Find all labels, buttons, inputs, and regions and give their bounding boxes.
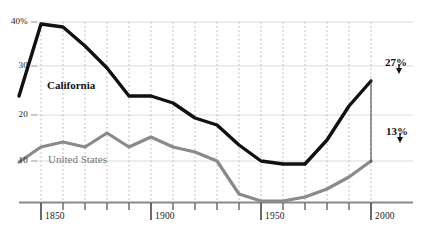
annotation-united-states-13-percent: 13%: [386, 125, 408, 137]
vertical-dotted-gridlines: [41, 22, 371, 200]
y-axis-label-20: 20: [0, 109, 28, 119]
x-axis-major-ticks: [41, 203, 371, 220]
horizontal-gridlines: [36, 22, 413, 161]
annotation-california-27-percent: 27%: [385, 56, 407, 68]
y-axis-label-40: 40%: [0, 16, 28, 26]
x-axis-ticks: [63, 203, 349, 210]
chart-container: 40% 30 20 10 1850 1900 1950 2000 Califor…: [0, 0, 431, 242]
series-label-united-states: United States: [48, 153, 107, 165]
x-axis-label-2000: 2000: [375, 211, 395, 221]
y-axis-label-10: 10: [0, 155, 28, 165]
series-label-california: California: [47, 79, 95, 91]
x-axis-label-1950: 1950: [265, 211, 285, 221]
x-axis-label-1850: 1850: [45, 211, 65, 221]
chart-plot-area: [0, 0, 431, 242]
x-axis-label-1900: 1900: [155, 211, 175, 221]
y-axis-label-30: 30: [0, 60, 28, 70]
